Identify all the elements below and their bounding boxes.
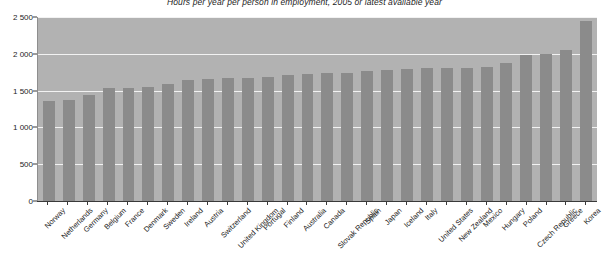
bar-slot (317, 17, 337, 201)
x-axis-tickmark-slot (158, 201, 178, 205)
x-axis-label-slot: Mexico (476, 206, 496, 266)
x-axis-tickmark-slot (98, 201, 118, 205)
x-axis-tickmark (207, 201, 208, 205)
bar[interactable] (162, 84, 174, 201)
bar[interactable] (43, 101, 55, 201)
bar[interactable] (441, 68, 453, 201)
bar-slot (397, 17, 417, 201)
x-axis-label-slot: Czech Republic (536, 206, 556, 266)
bar-slot (536, 17, 556, 201)
bar[interactable] (262, 77, 274, 201)
bar[interactable] (242, 78, 254, 201)
bar-slot (417, 17, 437, 201)
bar[interactable] (202, 79, 214, 201)
bar[interactable] (461, 68, 473, 201)
x-axis-tickmark-slot (118, 201, 138, 205)
x-axis-tickmark-slot (237, 201, 257, 205)
y-axis-tick-label: 500 (20, 160, 33, 169)
bar-slot (218, 17, 238, 201)
x-axis-tickmark (406, 201, 407, 205)
x-axis-label-slot: Ireland (177, 206, 197, 266)
x-axis-label-slot: Slovak Republic (337, 206, 357, 266)
bar[interactable] (282, 75, 294, 201)
bar[interactable] (103, 88, 115, 201)
x-axis-label-slot: France (118, 206, 138, 266)
x-axis-tickmark (486, 201, 487, 205)
bar[interactable] (481, 67, 493, 201)
x-axis-label-slot: Iceland (397, 206, 417, 266)
x-axis-tickmark (386, 201, 387, 205)
bar[interactable] (302, 74, 314, 201)
x-axis-tickmark-slot (556, 201, 576, 205)
x-axis-tickmark (47, 201, 48, 205)
x-axis-label-slot: Finland (277, 206, 297, 266)
bar-slot (59, 17, 79, 201)
x-axis-tickmark (167, 201, 168, 205)
bar[interactable] (401, 69, 413, 201)
bar-slot (258, 17, 278, 201)
x-axis-tickmark-slot (38, 201, 58, 205)
bar[interactable] (341, 73, 353, 201)
x-axis-tickmark (506, 201, 507, 205)
x-axis-label-slot: United States (436, 206, 456, 266)
x-axis-tickmark (346, 201, 347, 205)
x-axis-label-slot: Switzerland (217, 206, 237, 266)
x-axis-tickmark (87, 201, 88, 205)
bar[interactable] (361, 71, 373, 201)
bar[interactable] (560, 50, 572, 201)
bar[interactable] (540, 54, 552, 201)
bar-slot (556, 17, 576, 201)
x-axis-label-slot: Netherlands (58, 206, 78, 266)
x-axis-label-slot: Hungary (496, 206, 516, 266)
bar-slot (496, 17, 516, 201)
y-axis-tick-label: 1 500 (13, 86, 33, 95)
x-axis-tickmark (585, 201, 586, 205)
bar[interactable] (63, 100, 75, 201)
bar[interactable] (222, 78, 234, 201)
bar-slot (99, 17, 119, 201)
x-axis-label-slot: Australia (297, 206, 317, 266)
x-axis-tickmark-slot (536, 201, 556, 205)
x-axis-label-slot: Norway (38, 206, 58, 266)
bar[interactable] (580, 21, 592, 201)
x-axis-tickmark-slot (496, 201, 516, 205)
x-axis-label-slot: Japan (377, 206, 397, 266)
bar-slot (238, 17, 258, 201)
x-axis-tickmark (565, 201, 566, 205)
bar[interactable] (321, 73, 333, 201)
x-axis-tickmark-slot (417, 201, 437, 205)
bar-slot (437, 17, 457, 201)
bar-slot (377, 17, 397, 201)
x-axis-tickmark-slot (476, 201, 496, 205)
bar-slot (178, 17, 198, 201)
x-axis-tickmark (187, 201, 188, 205)
x-axis-label-slot: Austria (197, 206, 217, 266)
bar[interactable] (182, 80, 194, 201)
bar[interactable] (83, 95, 95, 201)
x-axis-tickmark (366, 201, 367, 205)
x-axis-tickmark (247, 201, 248, 205)
x-axis-labels: NorwayNetherlandsGermanyBelgiumFranceDen… (37, 206, 597, 266)
x-axis-tickmark-slot (177, 201, 197, 205)
y-axis-tick-label: 2 500 (13, 13, 33, 22)
x-axis-label-slot: Denmark (138, 206, 158, 266)
x-axis-label-slot: Germany (78, 206, 98, 266)
bar-slot (516, 17, 536, 201)
bar[interactable] (123, 88, 135, 201)
bar-slot (158, 17, 178, 201)
bar[interactable] (142, 87, 154, 201)
bar[interactable] (421, 68, 433, 201)
y-axis: 05001 0001 5002 0002 500 (0, 17, 37, 202)
x-axis-tickmark (267, 201, 268, 205)
x-axis-tickmarks (37, 201, 597, 205)
bar[interactable] (500, 63, 512, 201)
x-axis-tickmark (466, 201, 467, 205)
bar[interactable] (381, 70, 393, 201)
x-axis-tickmark (227, 201, 228, 205)
x-axis-tickmark-slot (257, 201, 277, 205)
x-axis-tickmark-slot (436, 201, 456, 205)
x-axis-tickmark-slot (317, 201, 337, 205)
bar-slot (39, 17, 59, 201)
x-axis-label-slot: Sweden (158, 206, 178, 266)
bar[interactable] (520, 55, 532, 201)
